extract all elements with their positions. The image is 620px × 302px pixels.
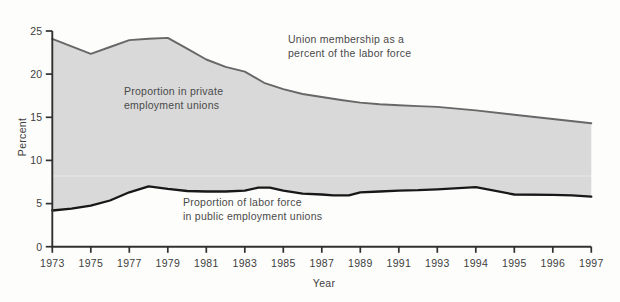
union-membership-chart: 0510152025197319751977197919811983198519… xyxy=(0,0,620,302)
x-tick-label-1996: 1996 xyxy=(541,257,566,269)
x-tick-label-1981: 1981 xyxy=(194,257,219,269)
annotation-line: percent of the labor force xyxy=(288,47,411,61)
x-tick-label-1979: 1979 xyxy=(156,257,181,269)
x-tick-label-1991: 1991 xyxy=(387,257,412,269)
x-tick-label-1975: 1975 xyxy=(79,257,104,269)
annotation-public-unions: Proportion of labor force in public empl… xyxy=(183,196,322,223)
y-tick-label-25: 25 xyxy=(30,25,42,37)
x-tick-label-1994: 1994 xyxy=(464,257,489,269)
annotation-line: Proportion in private xyxy=(124,85,223,99)
annotation-union-membership: Union membership as a percent of the lab… xyxy=(288,33,411,60)
x-tick-label-1983: 1983 xyxy=(233,257,258,269)
y-tick-label-20: 20 xyxy=(30,68,42,80)
annotation-line: employment unions xyxy=(124,99,223,113)
x-tick-label-1997: 1997 xyxy=(579,257,604,269)
y-tick-label-15: 15 xyxy=(30,111,42,123)
x-tick-label-1989: 1989 xyxy=(348,257,373,269)
y-axis-title: Percent xyxy=(16,118,28,156)
x-tick-label-1995: 1995 xyxy=(502,257,527,269)
y-tick-label-0: 0 xyxy=(36,241,42,253)
shaded-area-private-unions xyxy=(52,38,591,211)
x-axis-title: Year xyxy=(313,277,335,289)
x-tick-label-1987: 1987 xyxy=(310,257,335,269)
y-tick-label-5: 5 xyxy=(36,197,42,209)
x-tick-label-1973: 1973 xyxy=(40,257,65,269)
y-tick-label-10: 10 xyxy=(30,154,42,166)
x-tick-label-1977: 1977 xyxy=(117,257,142,269)
annotation-line: Proportion of labor force xyxy=(183,196,322,210)
annotation-line: Union membership as a xyxy=(288,33,411,47)
x-tick-label-1993: 1993 xyxy=(425,257,450,269)
annotation-line: in public employment unions xyxy=(183,210,322,224)
x-tick-label-1985: 1985 xyxy=(271,257,296,269)
page: { "chart_data": { "type": "area", "title… xyxy=(0,0,620,302)
annotation-private-unions: Proportion in private employment unions xyxy=(124,85,223,112)
